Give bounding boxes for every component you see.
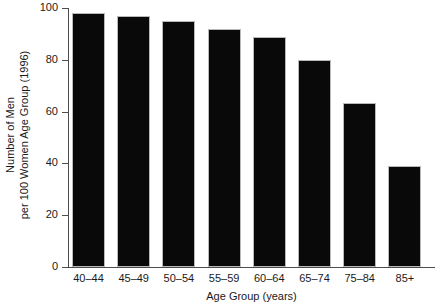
bar-chart: Number of Men per 100 Women Age Group (1…	[0, 0, 447, 307]
y-tick-label-wrap: 80	[32, 60, 58, 61]
x-axis-title: Age Group (years)	[68, 290, 435, 302]
bar	[117, 16, 150, 267]
bar	[388, 166, 421, 267]
y-tick-label: 60	[32, 105, 58, 117]
bar	[72, 13, 105, 267]
y-tick-mark	[62, 112, 68, 113]
y-tick-mark	[62, 163, 68, 164]
bar	[343, 103, 376, 267]
y-tick-label-wrap: 40	[32, 163, 58, 164]
y-tick-mark	[62, 267, 68, 268]
bar	[253, 37, 286, 268]
x-tick-label: 85+	[378, 272, 431, 284]
y-axis-title: Number of Men per 100 Women Age Group (1…	[0, 0, 34, 270]
y-tick-label: 100	[32, 1, 58, 13]
bar	[162, 21, 195, 267]
y-tick-label-wrap: 20	[32, 215, 58, 216]
y-axis-title-line2: per 100 Women Age Group (1996)	[17, 51, 31, 220]
y-tick-mark	[62, 8, 68, 9]
plot-area: 020406080100	[68, 8, 435, 268]
bars-container	[69, 8, 435, 267]
x-axis-line	[68, 267, 435, 268]
y-tick-label-wrap: 100	[32, 8, 58, 9]
y-tick-mark	[62, 215, 68, 216]
y-tick-label-wrap: 0	[32, 267, 58, 268]
y-tick-label: 0	[32, 260, 58, 272]
x-axis-tick-labels: 40–4445–4950–5455–5960–6465–7475–8485+	[68, 272, 435, 288]
y-tick-label: 20	[32, 208, 58, 220]
y-tick-mark	[62, 60, 68, 61]
y-tick-label: 40	[32, 156, 58, 168]
bar	[298, 60, 331, 267]
y-tick-label-wrap: 60	[32, 112, 58, 113]
y-tick-label: 80	[32, 53, 58, 65]
bar	[208, 29, 241, 267]
y-axis-title-line1: Number of Men	[3, 51, 17, 220]
